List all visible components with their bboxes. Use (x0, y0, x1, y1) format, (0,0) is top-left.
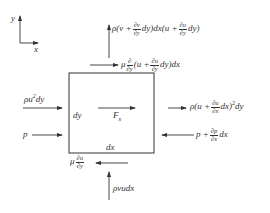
top-shear-label: μ∂∂y(u +∂u∂ydy)dx (121, 58, 180, 72)
axes-icon (20, 16, 38, 43)
bottom-shear-label: μ∂u∂y (70, 155, 85, 169)
element-height-label: dy (73, 111, 82, 120)
left-pressure-label: p (23, 130, 28, 139)
body-force-label: Fx (113, 111, 121, 122)
bottom-flux-label: ρvudx (113, 184, 134, 193)
x-axis-label: x (34, 45, 38, 54)
top-flux-label: ρ(v +∂v∂ydy)dx(u +∂u∂ydy) (112, 22, 200, 36)
right-flux-label: ρ(u +∂u∂xdx)2dy (190, 100, 244, 114)
element-width-label: dx (106, 143, 115, 152)
y-axis-label: y (11, 14, 15, 23)
right-pressure-label: p +∂p∂xdx (196, 128, 228, 142)
left-flux-label: ρu2dy (24, 95, 44, 104)
control-volume-box (69, 73, 154, 153)
